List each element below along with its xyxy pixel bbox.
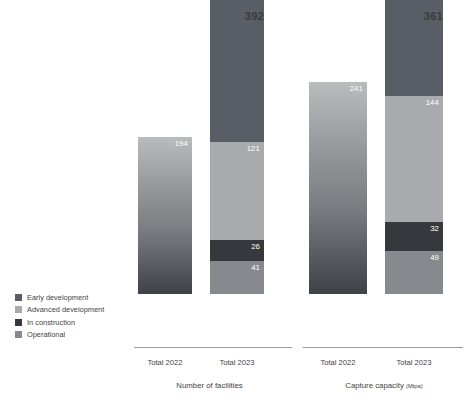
legend-label-operational: Operational bbox=[27, 330, 65, 339]
legend-swatch-operational bbox=[15, 331, 22, 338]
segment-value-capacity-in-construction: 32 bbox=[430, 224, 439, 233]
axis-title-unit-capacity: (Mtpa) bbox=[406, 383, 423, 389]
segment-facilities-advanced-development[interactable]: 121 bbox=[210, 142, 264, 240]
axis-title-facilities: Number of facilities bbox=[122, 381, 297, 390]
legend-label-early-development: Early development bbox=[27, 293, 88, 302]
bar-capacity-total-2022[interactable]: 241 bbox=[309, 82, 367, 294]
bar-value-label-capacity-2022: 241 bbox=[350, 84, 363, 93]
bar-total-label-facilities-2023: 392 bbox=[210, 10, 264, 22]
bar-total-label-capacity-2023: 361 bbox=[385, 10, 443, 22]
bar-facilities-total-2023[interactable]: 204 121 26 41 bbox=[210, 0, 264, 294]
segment-value-capacity-operational: 49 bbox=[430, 253, 439, 262]
chart-legend: Early development Advanced development I… bbox=[15, 291, 135, 341]
panel-capture-capacity: 241 135 144 32 49 361 Total 2022 bbox=[297, 0, 471, 402]
segment-facilities-operational[interactable]: 41 bbox=[210, 261, 264, 294]
category-label-facilities-2023: Total 2023 bbox=[210, 358, 264, 367]
segment-capacity-in-construction[interactable]: 32 bbox=[385, 222, 443, 251]
axis-baseline-capacity bbox=[303, 347, 463, 348]
legend-label-advanced-development: Advanced development bbox=[27, 305, 104, 314]
segment-facilities-in-construction[interactable]: 26 bbox=[210, 240, 264, 261]
legend-swatch-in-construction bbox=[15, 319, 22, 326]
bar-capacity-total-2023[interactable]: 135 144 32 49 bbox=[385, 0, 443, 294]
segment-value-facilities-in-construction: 26 bbox=[251, 242, 260, 251]
legend-label-in-construction: In construction bbox=[27, 318, 75, 327]
segment-value-facilities-advanced-development: 121 bbox=[247, 144, 260, 153]
segment-value-capacity-advanced-development: 144 bbox=[426, 98, 439, 107]
segment-capacity-operational[interactable]: 49 bbox=[385, 251, 443, 294]
axis-baseline-facilities bbox=[134, 347, 292, 348]
stacked-bar-chart-figure: Early development Advanced development I… bbox=[0, 0, 471, 402]
category-label-facilities-2022: Total 2022 bbox=[138, 358, 192, 367]
axis-title-capacity: Capture capacity (Mtpa) bbox=[297, 381, 471, 390]
legend-item-in-construction[interactable]: In construction bbox=[15, 316, 135, 329]
legend-item-advanced-development[interactable]: Advanced development bbox=[15, 304, 135, 317]
plot-area-facilities: 194 204 121 26 41 392 bbox=[122, 0, 297, 348]
panel-number-of-facilities: 194 204 121 26 41 392 Tot bbox=[122, 0, 297, 402]
bar-value-label-facilities-2022: 194 bbox=[175, 139, 188, 148]
plot-area-capacity: 241 135 144 32 49 361 bbox=[297, 0, 471, 348]
category-label-capacity-2022: Total 2022 bbox=[309, 358, 367, 367]
legend-item-operational[interactable]: Operational bbox=[15, 329, 135, 342]
segment-value-facilities-operational: 41 bbox=[251, 263, 260, 272]
category-label-capacity-2023: Total 2023 bbox=[385, 358, 443, 367]
legend-swatch-advanced-development bbox=[15, 306, 22, 313]
axis-title-text-facilities: Number of facilities bbox=[176, 381, 242, 390]
legend-swatch-early-development bbox=[15, 294, 22, 301]
segment-capacity-advanced-development[interactable]: 144 bbox=[385, 96, 443, 222]
axis-title-text-capacity: Capture capacity bbox=[345, 381, 404, 390]
bar-facilities-total-2022[interactable]: 194 bbox=[138, 137, 192, 294]
legend-item-early-development[interactable]: Early development bbox=[15, 291, 135, 304]
